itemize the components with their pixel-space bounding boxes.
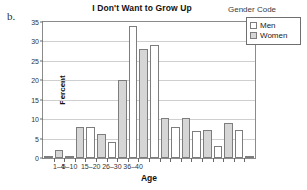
plot-area: Percent 05101520253035 1–45–1015–2026–30… [42, 21, 256, 159]
x-tick-mark [191, 158, 192, 162]
bar [139, 49, 147, 158]
bar-series [43, 22, 255, 158]
x-tick-mark [223, 158, 224, 162]
x-tick-mark [202, 158, 203, 162]
x-tick-mark [170, 158, 171, 162]
chart-title: I Don't Want to Grow Up [62, 3, 222, 13]
bar [55, 150, 63, 158]
x-tick-mark [64, 158, 65, 162]
y-tick-label: 15 [31, 96, 39, 103]
x-tick-mark [128, 158, 129, 162]
bar [161, 118, 169, 158]
x-tick-label: 15–20 [81, 163, 100, 170]
x-tick-label: 26–30 [102, 163, 121, 170]
bar [118, 80, 126, 158]
bar [150, 45, 158, 158]
bar [76, 127, 84, 158]
legend-label: Women [260, 31, 287, 40]
legend: MenWomen [246, 17, 301, 45]
bar [44, 156, 52, 158]
y-tick-label: 0 [35, 155, 39, 162]
panel-letter: b. [7, 10, 15, 22]
bar [108, 142, 116, 158]
figure: b. I Don't Want to Grow Up Percent 05101… [0, 0, 307, 190]
bar [235, 130, 243, 158]
x-tick-mark [117, 158, 118, 162]
x-tick-label: 36–40 [123, 163, 142, 170]
bar [97, 134, 105, 158]
x-tick-mark [160, 158, 161, 162]
bar [203, 130, 211, 158]
bar [245, 156, 253, 158]
y-tick-label: 5 [35, 135, 39, 142]
bar [182, 118, 190, 158]
legend-swatch-icon [250, 22, 257, 29]
y-tick-label: 35 [31, 19, 39, 26]
bar [192, 131, 200, 158]
bar [86, 127, 94, 158]
x-tick-mark [138, 158, 139, 162]
y-tick-label: 20 [31, 77, 39, 84]
x-tick-mark [181, 158, 182, 162]
x-tick-mark [107, 158, 108, 162]
y-tick-label: 25 [31, 57, 39, 64]
legend-swatch-icon [250, 32, 257, 39]
legend-item[interactable]: Men [250, 21, 297, 30]
x-tick-mark [96, 158, 97, 162]
legend-label: Men [260, 21, 276, 30]
bar [224, 123, 232, 158]
bar [214, 146, 222, 158]
bar [129, 26, 137, 158]
y-tick-label: 30 [31, 38, 39, 45]
x-tick-label: 5–10 [62, 163, 78, 170]
x-tick-mark [244, 158, 245, 162]
legend-title: Gender Code [228, 5, 276, 14]
bar [65, 156, 73, 158]
y-tick-label: 10 [31, 116, 39, 123]
x-tick-mark [234, 158, 235, 162]
x-axis-label: Age [43, 173, 255, 183]
x-tick-mark [149, 158, 150, 162]
x-tick-mark [75, 158, 76, 162]
x-tick-mark [213, 158, 214, 162]
bar [171, 127, 179, 158]
x-tick-mark [54, 158, 55, 162]
x-tick-mark [85, 158, 86, 162]
legend-item[interactable]: Women [250, 31, 297, 40]
